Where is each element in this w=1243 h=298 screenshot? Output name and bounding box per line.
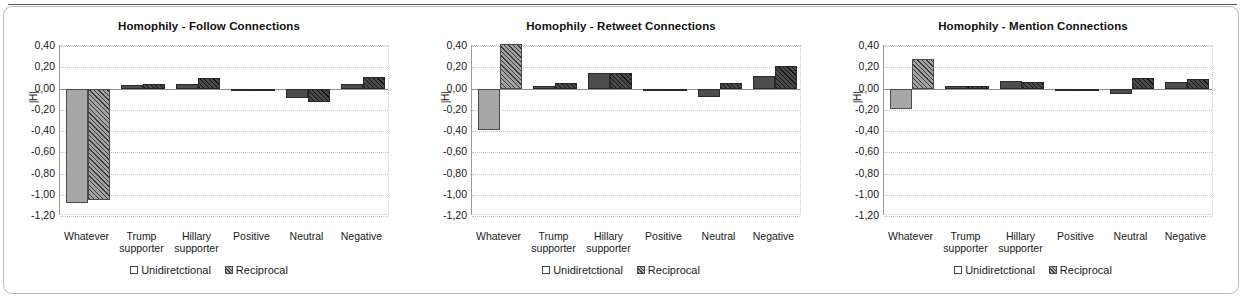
y-tick-label: -0,80 [833,168,879,178]
x-tick-label: Negative [746,230,801,242]
x-tick-line1: Hillary [182,230,211,242]
y-tick-label: -0,60 [833,146,879,156]
legend-item-reciprocal[interactable]: Reciprocal [637,264,700,276]
bar-unidirectional [753,76,775,89]
x-tick-line1: Trump [951,230,981,242]
plot-canvas [471,45,801,215]
x-tick-line2: supporter [114,242,169,254]
x-tick-label: Trumpsupporter [938,230,993,254]
bar-reciprocal [610,73,632,89]
y-tick-label: 0,40 [833,40,879,50]
bar-group [884,46,939,214]
bar-reciprocal [1022,82,1044,88]
bar-reciprocal [665,89,687,91]
gridline [472,216,800,217]
bar-unidirectional [890,89,912,109]
x-tick-line1: Hillary [594,230,623,242]
bar-group [1104,46,1159,214]
bar-group [582,46,637,214]
bar-group [225,46,280,214]
legend-item-unidirectional[interactable]: Unidiretctional [130,264,211,276]
chart-panel-2: Homophily - Retweet Connections|H|0,400,… [415,6,827,294]
y-tick-label: -0,40 [9,125,55,135]
x-tick-label: Positive [636,230,691,242]
x-tick-label: Whatever [883,230,938,242]
bar-unidirectional [121,85,143,88]
chart-panels: Homophily - Follow Connections|H|0,400,2… [3,6,1239,294]
bar-group [1049,46,1104,214]
plot-area: 0,400,200,00-0,20-0,40-0,60-0,80-1,00-1,… [59,45,389,228]
bar-reciprocal [308,89,330,103]
x-tick-label: Negative [1158,230,1213,242]
y-tick-label: -0,80 [9,168,55,178]
bar-reciprocal [88,89,110,201]
chart-legend: UnidiretctionalReciprocal [3,264,415,276]
bar-reciprocal [253,89,275,91]
legend-item-unidirectional[interactable]: Unidiretctional [954,264,1035,276]
y-tick-label: -0,20 [9,104,55,114]
bar-unidirectional [341,84,363,88]
plot-area: 0,400,200,00-0,20-0,40-0,60-0,80-1,00-1,… [471,45,801,228]
bar-group [115,46,170,214]
x-tick-label: Hillarysupporter [169,230,224,254]
legend-item-unidirectional[interactable]: Unidiretctional [542,264,623,276]
x-tick-line1: Positive [645,230,682,242]
x-tick-label: Negative [334,230,389,242]
bar-reciprocal [775,66,797,88]
x-tick-label: Positive [224,230,279,242]
x-tick-line1: Neutral [1114,230,1148,242]
legend-item-reciprocal[interactable]: Reciprocal [1049,264,1112,276]
bar-unidirectional [478,89,500,130]
x-tick-line1: Negative [753,230,794,242]
bar-reciprocal [1077,89,1099,91]
bar-unidirectional [643,89,665,91]
homophily-figure: Homophily - Follow Connections|H|0,400,2… [0,0,1243,298]
x-tick-line1: Whatever [476,230,521,242]
x-tick-line1: Negative [341,230,382,242]
x-tick-line1: Positive [1057,230,1094,242]
plot-canvas [883,45,1213,215]
legend-label: Reciprocal [1060,264,1112,276]
bar-reciprocal [198,78,220,89]
legend-label: Unidiretctional [965,264,1035,276]
gridline [60,216,388,217]
bar-group [939,46,994,214]
bar-group [335,46,390,214]
x-tick-line1: Hillary [1006,230,1035,242]
y-tick-label: -0,40 [421,125,467,135]
y-tick-label: -0,60 [421,146,467,156]
bar-unidirectional [1110,89,1132,94]
bar-unidirectional [533,86,555,88]
legend-label: Unidiretctional [141,264,211,276]
legend-label: Unidiretctional [553,264,623,276]
x-tick-label: Neutral [279,230,334,242]
bar-unidirectional [1000,81,1022,88]
bar-layer [60,46,388,214]
legend-label: Reciprocal [648,264,700,276]
x-tick-line1: Trump [127,230,157,242]
bar-reciprocal [500,44,522,89]
bar-layer [472,46,800,214]
y-tick-label: -1,00 [9,189,55,199]
bar-unidirectional [176,84,198,88]
bar-group [994,46,1049,214]
y-tick-label: -0,80 [421,168,467,178]
y-tick-label: -0,20 [833,104,879,114]
y-tick-label: -1,20 [833,210,879,220]
plot-area: 0,400,200,00-0,20-0,40-0,60-0,80-1,00-1,… [883,45,1213,228]
bar-unidirectional [945,86,967,88]
chart-title: Homophily - Follow Connections [3,20,415,32]
chart-panel-1: Homophily - Follow Connections|H|0,400,2… [3,6,415,294]
legend-label: Reciprocal [236,264,288,276]
x-tick-label: Hillarysupporter [993,230,1048,254]
y-tick-label: 0,00 [421,83,467,93]
unidirectional-swatch-icon [130,266,138,274]
bar-group [747,46,802,214]
legend-item-reciprocal[interactable]: Reciprocal [225,264,288,276]
y-tick-label: 0,20 [9,61,55,71]
y-tick-label: 0,40 [9,40,55,50]
x-tick-line2: supporter [526,242,581,254]
reciprocal-swatch-icon [637,266,645,274]
y-tick-label: 0,40 [421,40,467,50]
x-tick-line1: Neutral [290,230,324,242]
